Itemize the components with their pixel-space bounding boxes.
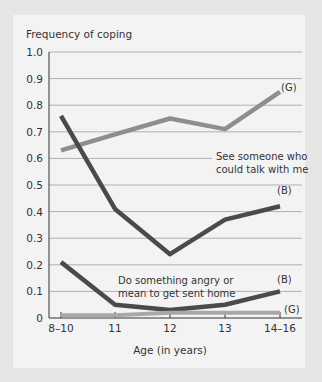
annotation-talk-line1: See someone who (216, 151, 307, 162)
y-tick-label: 0.8 (26, 99, 43, 111)
x-tick-label: 11 (108, 322, 121, 334)
x-axis-label: Age (in years) (133, 344, 207, 356)
label-g-angry: (G) (284, 304, 300, 315)
y-tick-label: 1.0 (26, 46, 43, 58)
label-b-angry: (B) (277, 274, 292, 285)
series-line (61, 92, 280, 151)
annotation-angry-line2: mean to get sent home (118, 288, 236, 299)
x-tick-label: 14–16 (264, 322, 296, 334)
y-tick-label: 0.5 (26, 179, 43, 191)
x-tick-label: 8–10 (48, 322, 73, 334)
line-chart: 00.10.20.30.40.50.60.70.80.91.0 8–101112… (0, 0, 322, 382)
y-tick-label: 0.9 (26, 73, 43, 85)
annotation-talk-line2: could talk with me (216, 164, 308, 175)
y-tick-labels: 00.10.20.30.40.50.60.70.80.91.0 (26, 46, 43, 324)
y-tick-label: 0.1 (26, 285, 43, 297)
annotation-angry-line1: Do something angry or (118, 275, 234, 286)
series-line (61, 262, 280, 310)
y-tick-label: 0.4 (26, 206, 43, 218)
y-axis-label: Frequency of coping (26, 28, 132, 40)
y-tick-label: 0.7 (26, 126, 43, 138)
label-g-talk: (G) (281, 82, 297, 93)
y-tick-label: 0.3 (26, 232, 43, 244)
y-tick-label: 0 (36, 312, 43, 324)
x-tick-label: 13 (218, 322, 231, 334)
label-b-talk: (B) (277, 185, 292, 196)
y-tick-label: 0.6 (26, 152, 43, 164)
y-tick-label: 0.2 (26, 259, 43, 271)
x-tick-label: 12 (163, 322, 176, 334)
